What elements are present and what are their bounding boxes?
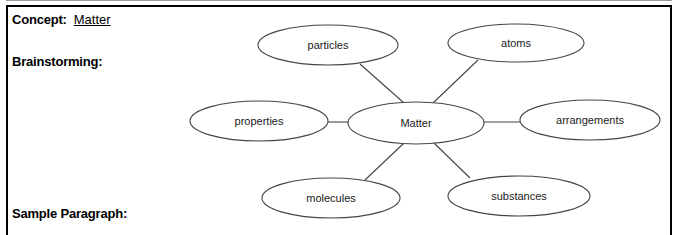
- node-arrangements[interactable]: arrangements: [520, 100, 660, 140]
- node-particles[interactable]: particles: [258, 25, 398, 65]
- connector-center-to-particles: [360, 64, 404, 103]
- node-atoms[interactable]: atoms: [448, 24, 584, 62]
- node-layer: particlesatomspropertiesarrangementsmole…: [190, 24, 660, 218]
- node-properties[interactable]: properties: [190, 101, 328, 141]
- concept-map-diagram: particlesatomspropertiesarrangementsmole…: [0, 0, 678, 235]
- connector-center-to-atoms: [433, 60, 478, 103]
- brainstorming-worksheet: Concept:Matter Brainstorming: Sample Par…: [0, 0, 678, 235]
- connector-center-to-molecules: [365, 143, 404, 180]
- node-label-properties: properties: [235, 115, 284, 127]
- node-label-molecules: molecules: [306, 192, 356, 204]
- connector-center-to-substances: [434, 143, 470, 178]
- node-label-particles: particles: [308, 39, 349, 51]
- node-substances[interactable]: substances: [448, 176, 590, 216]
- node-label-arrangements: arrangements: [556, 114, 624, 126]
- node-center-matter[interactable]: Matter: [348, 102, 484, 144]
- node-label-substances: substances: [491, 190, 547, 202]
- node-label-atoms: atoms: [501, 37, 531, 49]
- node-molecules[interactable]: molecules: [262, 178, 400, 218]
- node-label-center-matter: Matter: [400, 117, 432, 129]
